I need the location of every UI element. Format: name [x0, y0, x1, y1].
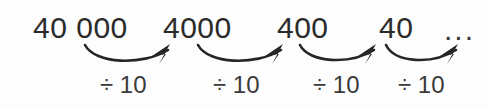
operation-label-2: ÷ 10 [213, 71, 260, 98]
terms-row: 40 000 4000 400 40 ... [33, 11, 475, 46]
curved-arrow-icon-1 [85, 45, 168, 61]
arrow-head-icon-1 [152, 44, 170, 64]
term-400: 400 [277, 11, 329, 44]
operations-row: ÷ 10 ÷ 10 ÷ 10 ÷ 10 [100, 71, 445, 98]
division-sequence-diagram: 40 000 4000 400 40 ... ÷ 10 ÷ 10 ÷ 10 ÷ … [0, 0, 489, 108]
ellipsis: ... [444, 13, 475, 46]
arrows-group [85, 44, 458, 64]
diagram-canvas: 40 000 4000 400 40 ... ÷ 10 ÷ 10 ÷ 10 ÷ … [0, 0, 489, 108]
arrow-head-icon-3 [358, 44, 376, 64]
curved-arrow-icon-2 [198, 45, 281, 61]
arrow-head-icon-2 [265, 44, 283, 64]
arrow-head-icon-4 [440, 44, 458, 64]
term-4000: 4000 [163, 11, 232, 44]
curved-arrow-icon-3 [300, 45, 374, 60]
term-40: 40 [379, 11, 413, 44]
operation-label-3: ÷ 10 [313, 71, 360, 98]
operation-label-4: ÷ 10 [398, 71, 445, 98]
term-40000: 40 000 [33, 11, 128, 44]
operation-label-1: ÷ 10 [100, 71, 147, 98]
